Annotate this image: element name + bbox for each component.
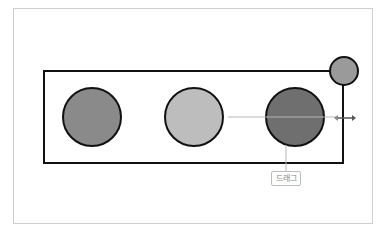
diagram-canvas xyxy=(0,0,384,232)
corner-handle-circle[interactable] xyxy=(330,57,358,85)
drag-arrow-icon[interactable] xyxy=(334,115,356,121)
middle-circle xyxy=(165,88,223,146)
left-circle xyxy=(63,88,121,146)
drag-callout-label: 드래그 xyxy=(271,171,301,186)
